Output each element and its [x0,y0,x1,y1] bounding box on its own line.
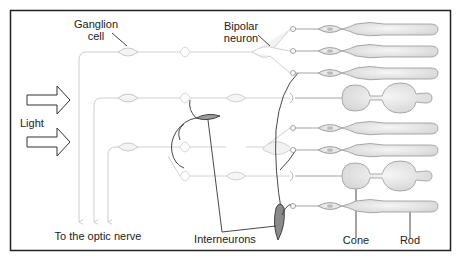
label-bipolar-neuron: Bipolar neuron [216,20,266,44]
label-optic-nerve: To the optic nerve [48,230,148,242]
label-ganglion-cell: Ganglion cell [64,18,128,42]
label-cone: Cone [340,234,372,246]
label-light: Light [20,117,50,129]
label-interneurons: Interneurons [190,233,260,245]
label-rod: Rod [396,234,424,246]
